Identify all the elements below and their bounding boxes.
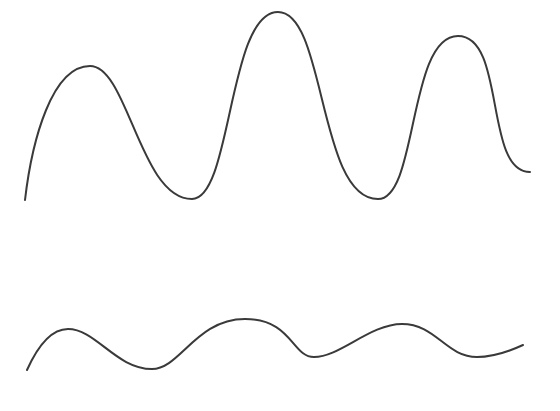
top-wave-curve	[25, 12, 530, 200]
waves-svg	[0, 0, 560, 411]
bottom-wave-curve	[27, 319, 523, 370]
wave-figure	[0, 0, 560, 411]
